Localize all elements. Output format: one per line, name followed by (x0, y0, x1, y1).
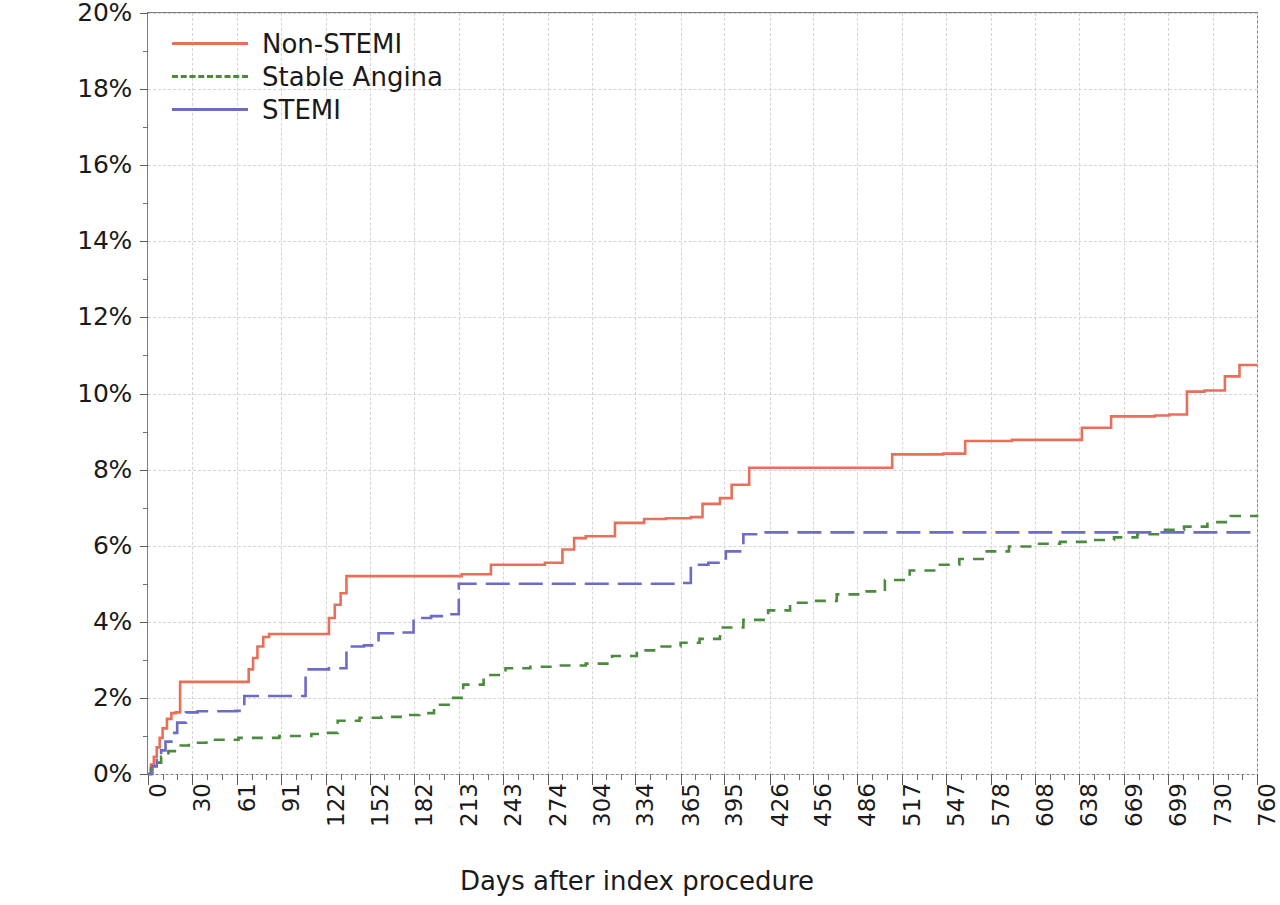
x-tick-minor (1050, 774, 1051, 780)
x-tick-minor (843, 774, 844, 780)
x-tick-minor (1242, 774, 1243, 780)
y-tick-mark (140, 165, 148, 166)
chart-legend: Non-STEMIStable AnginaSTEMI (170, 25, 449, 130)
x-axis-title: Days after index procedure (0, 866, 1274, 896)
x-tick-minor (666, 774, 667, 780)
gridline-vertical (1257, 13, 1258, 774)
x-tick-label: 638 (1076, 783, 1102, 827)
y-tick-mark (140, 241, 148, 242)
x-tick-label: 486 (854, 783, 880, 827)
x-tick-minor (1094, 774, 1095, 780)
legend-label: Stable Angina (262, 64, 443, 90)
x-tick-label: 699 (1165, 783, 1191, 827)
x-tick-minor (311, 774, 312, 780)
y-tick-mark (140, 470, 148, 471)
x-tick-label: 61 (234, 783, 260, 812)
x-tick-minor (1153, 774, 1154, 780)
y-tick-label: 6% (93, 530, 132, 559)
y-tick-mark (140, 394, 148, 395)
x-tick-minor (621, 774, 622, 780)
y-tick-mark (140, 13, 148, 14)
x-tick-minor (1109, 774, 1110, 780)
x-tick-minor (650, 774, 651, 780)
x-tick-minor (355, 774, 356, 780)
x-tick-label: 395 (721, 783, 747, 827)
series-line-stemi (148, 532, 1257, 774)
x-tick-minor (429, 774, 430, 780)
series-line-stable-angina (148, 515, 1257, 775)
legend-swatch-icon (172, 108, 248, 111)
x-tick-minor (518, 774, 519, 780)
x-tick-label: 426 (767, 783, 793, 827)
x-tick-label: 213 (456, 783, 482, 827)
legend-label: STEMI (262, 97, 341, 123)
x-tick-minor (399, 774, 400, 780)
y-tick-label: 16% (77, 150, 132, 179)
x-tick-minor (1183, 774, 1184, 780)
y-tick-label: 10% (77, 378, 132, 407)
plot-area: Non-STEMIStable AnginaSTEMI (147, 12, 1258, 775)
y-tick-label: 20% (77, 0, 132, 27)
series-line-non-stemi (148, 365, 1257, 774)
y-tick-label: 8% (93, 454, 132, 483)
y-tick-mark (140, 317, 148, 318)
x-tick-label: 30 (189, 783, 215, 812)
x-tick-minor (252, 774, 253, 780)
x-tick-minor (976, 774, 977, 780)
x-tick-label: 182 (411, 783, 437, 827)
y-tick-label: 2% (93, 682, 132, 711)
x-tick-minor (341, 774, 342, 780)
legend-item[interactable]: STEMI (172, 93, 443, 126)
x-tick-minor (266, 774, 267, 780)
x-tick-label: 304 (589, 783, 615, 827)
y-tick-label: 18% (77, 74, 132, 103)
y-tick-mark (140, 774, 148, 775)
x-tick-label: 669 (1121, 783, 1147, 827)
x-tick-label: 547 (943, 783, 969, 827)
x-tick-minor (872, 774, 873, 780)
x-tick-label: 243 (500, 783, 526, 827)
y-tick-label: 14% (77, 226, 132, 255)
x-tick-minor (207, 774, 208, 780)
x-tick-label: 0 (145, 783, 171, 798)
x-tick-minor (384, 774, 385, 780)
x-tick-minor (1021, 774, 1022, 780)
legend-item[interactable]: Stable Angina (172, 60, 443, 93)
x-tick-minor (961, 774, 962, 780)
y-tick-label: 0% (93, 759, 132, 788)
x-tick-minor (1006, 774, 1007, 780)
x-tick-label: 760 (1254, 783, 1280, 827)
x-tick-minor (562, 774, 563, 780)
x-tick-label: 334 (632, 783, 658, 827)
y-tick-mark (140, 698, 148, 699)
y-tick-mark (140, 622, 148, 623)
x-tick-minor (296, 774, 297, 780)
x-tick-label: 456 (810, 783, 836, 827)
x-tick-minor (606, 774, 607, 780)
x-tick-minor (222, 774, 223, 780)
x-tick-minor (932, 774, 933, 780)
x-tick-label: 608 (1032, 783, 1058, 827)
legend-item[interactable]: Non-STEMI (172, 27, 443, 60)
legend-swatch-icon (172, 75, 248, 78)
x-tick-label: 152 (367, 783, 393, 827)
x-tick-minor (473, 774, 474, 780)
x-tick-label: 365 (678, 783, 704, 827)
x-tick-label: 274 (545, 783, 571, 827)
legend-label: Non-STEMI (262, 31, 402, 57)
legend-swatch-icon (172, 42, 248, 45)
x-tick-minor (1198, 774, 1199, 780)
x-tick-minor (755, 774, 756, 780)
x-tick-minor (1228, 774, 1229, 780)
y-tick-label: 4% (93, 606, 132, 635)
x-tick-minor (488, 774, 489, 780)
x-tick-minor (784, 774, 785, 780)
x-tick-minor (695, 774, 696, 780)
x-tick-minor (444, 774, 445, 780)
x-tick-label: 578 (988, 783, 1014, 827)
x-tick-minor (177, 774, 178, 780)
x-tick-minor (163, 774, 164, 780)
x-tick-minor (577, 774, 578, 780)
x-tick-minor (739, 774, 740, 780)
